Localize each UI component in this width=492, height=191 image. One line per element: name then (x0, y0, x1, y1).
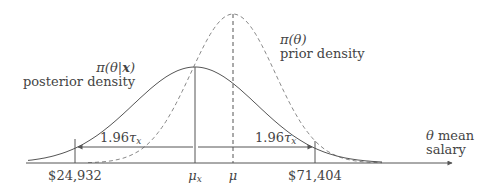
left-half-width-label: 1.96τx (100, 130, 141, 146)
right-half-width-label: 1.96τx (255, 130, 296, 146)
posterior-formula: π(θ|x) (95, 60, 135, 75)
prior-formula: π(θ) (279, 32, 307, 47)
axis-label-line2: salary (426, 142, 467, 157)
bayesian-posterior-diagram: 1.96τx 1.96τx π(θ|x) posterior density π… (0, 0, 492, 191)
lower-bound-value: $24,932 (48, 168, 102, 183)
prior-density-label: prior density (280, 46, 365, 61)
upper-bound-value: $71,404 (288, 168, 342, 183)
posterior-mean-label: μx (188, 168, 202, 184)
prior-mean-label: μ (229, 168, 237, 183)
posterior-density-label: posterior density (23, 74, 136, 89)
axis-label-line1: θ mean (426, 128, 475, 143)
